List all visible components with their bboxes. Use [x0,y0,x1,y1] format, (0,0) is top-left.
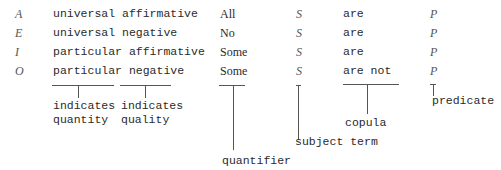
predicate-cell: P [430,7,437,21]
predicate-cell: P [430,45,437,59]
quality-label-line2: quality [121,113,169,127]
predicate-label: predicate [432,94,494,108]
quality-bracket-stem [145,85,146,98]
quantity-label-line2: quantity [53,113,108,127]
quantifier-bracket-stem [233,85,234,150]
quantifier-label: quantifier [222,154,291,168]
subject-term-label: subject term [295,135,378,149]
subject-cell: S [296,7,302,21]
subject-cell: S [296,26,302,40]
copula-cell: are [343,26,364,40]
quantifier-cell: All [220,7,235,21]
quantifier-cell: No [220,26,235,40]
proposition-type: particular affirmative [53,45,205,59]
subject-tick-stem [298,85,299,140]
subject-cell: S [296,45,302,59]
copula-bracket-stem [367,84,368,114]
proposition-type: universal affirmative [53,7,198,21]
predicate-cell: P [430,64,437,78]
quantifier-bracket [219,85,245,86]
copula-bracket [343,84,399,85]
proposition-letter: I [15,45,19,59]
proposition-letter: O [15,64,24,78]
quantifier-cell: Some [220,45,247,59]
proposition-type: universal negative [53,26,177,40]
proposition-letter: A [15,7,22,21]
quantifier-cell: Some [220,64,247,78]
copula-cell: are not [343,64,391,78]
subject-cell: S [296,64,302,78]
copula-cell: are [343,7,364,21]
quantity-label-line1: indicates [53,99,115,113]
copula-cell: are [343,45,364,59]
proposition-type: particular negative [53,64,184,78]
quantity-bracket [52,85,114,86]
copula-label: copula [345,116,386,130]
proposition-letter: E [15,26,22,40]
quantity-bracket-stem [78,85,79,98]
predicate-cell: P [430,26,437,40]
quality-label-line1: indicates [121,99,183,113]
